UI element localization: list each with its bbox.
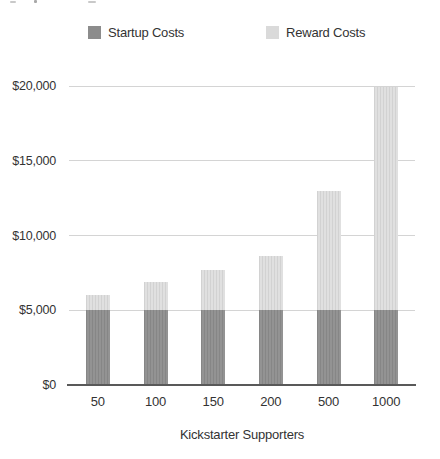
bar-100-reward [144, 282, 168, 310]
x-tick-label-1000: 1000 [361, 395, 411, 409]
crop-artifact [34, 0, 37, 3]
bar-200-startup [259, 310, 283, 385]
bar-500-reward [317, 191, 341, 311]
bar-150-startup [201, 310, 225, 385]
legend-item-startup-costs: Startup Costs [88, 25, 184, 39]
legend-label-reward: Reward Costs [286, 25, 365, 40]
crop-artifact [88, 1, 96, 3]
x-tick-label-150: 150 [188, 395, 238, 409]
legend-label-startup: Startup Costs [108, 25, 184, 40]
crop-artifact [10, 1, 16, 3]
x-tick-label-500: 500 [304, 395, 354, 409]
y-tick-label: $10,000 [12, 229, 56, 243]
x-axis-line [67, 384, 416, 386]
y-tick-label: $15,000 [12, 154, 56, 168]
y-tick-label: $0 [42, 378, 56, 392]
bar-1000-reward [374, 87, 398, 310]
legend-swatch-startup-icon [88, 26, 101, 39]
gridline-20000 [69, 86, 415, 87]
x-tick-label-100: 100 [131, 395, 181, 409]
x-tick-label-50: 50 [73, 395, 123, 409]
bar-100-startup [144, 310, 168, 385]
y-tick-label: $20,000 [12, 79, 56, 93]
x-tick-label-200: 200 [246, 395, 296, 409]
bar-50-reward [86, 295, 110, 310]
x-axis-title: Kickstarter Supporters [69, 427, 415, 442]
gridline-15000 [69, 160, 415, 161]
bar-150-reward [201, 270, 225, 310]
gridline-5000 [69, 310, 415, 311]
legend-swatch-reward-icon [266, 26, 279, 39]
legend-item-reward-costs: Reward Costs [266, 25, 365, 39]
bar-500-startup [317, 310, 341, 385]
bar-200-reward [259, 256, 283, 310]
bar-50-startup [86, 310, 110, 385]
y-tick-label: $5,000 [19, 303, 56, 317]
chart-container: Startup Costs Reward Costs $0$5,000$10,0… [0, 0, 440, 459]
bar-1000-startup [374, 310, 398, 385]
gridline-10000 [69, 235, 415, 236]
